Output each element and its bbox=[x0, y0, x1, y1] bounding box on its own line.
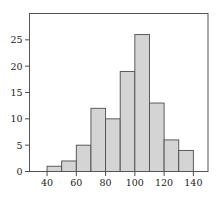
histogram-bar bbox=[47, 166, 62, 171]
x-tick-label: 140 bbox=[184, 177, 202, 188]
x-tick-label: 80 bbox=[100, 177, 112, 188]
y-tick-label: 0 bbox=[16, 166, 22, 177]
histogram-bar bbox=[106, 119, 121, 172]
bars-layer bbox=[47, 35, 193, 172]
histogram-bar bbox=[164, 140, 179, 172]
histogram-bar bbox=[135, 35, 150, 172]
x-tick-label: 100 bbox=[126, 177, 144, 188]
y-tick-label: 5 bbox=[16, 140, 22, 151]
x-tick-label: 60 bbox=[70, 177, 82, 188]
histogram-bar bbox=[179, 150, 194, 171]
histogram-chart: 4060801001201400510152025 bbox=[0, 0, 223, 199]
x-tick-label: 120 bbox=[155, 177, 173, 188]
y-tick-label: 10 bbox=[10, 113, 22, 124]
x-tick-label: 40 bbox=[41, 177, 53, 188]
y-tick-label: 15 bbox=[10, 87, 22, 98]
histogram-bar bbox=[149, 103, 164, 171]
histogram-figure: 4060801001201400510152025 bbox=[0, 0, 223, 199]
histogram-bar bbox=[120, 71, 135, 171]
histogram-bar bbox=[91, 108, 106, 171]
y-tick-label: 25 bbox=[10, 34, 22, 45]
y-tick-label: 20 bbox=[10, 61, 22, 72]
histogram-bar bbox=[62, 161, 77, 172]
histogram-bar bbox=[76, 145, 91, 171]
